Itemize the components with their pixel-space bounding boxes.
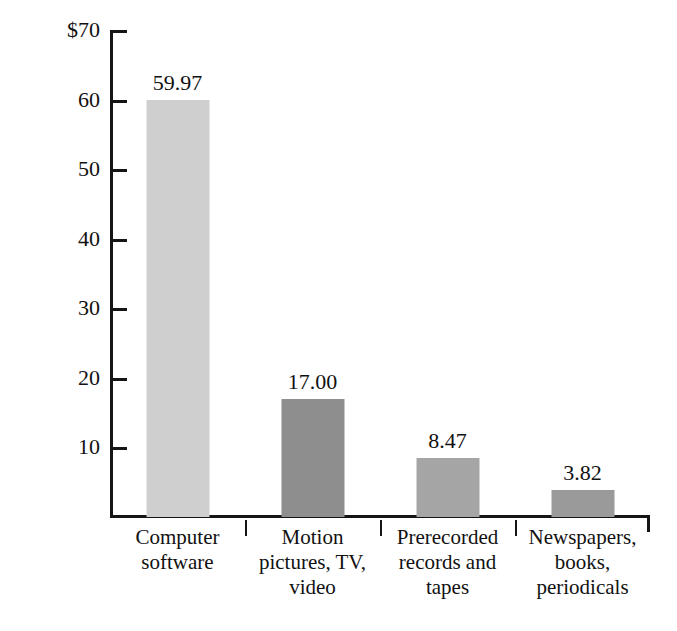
x-axis-category-line: books, (515, 550, 650, 575)
y-axis-tick-label: 40 (38, 226, 100, 252)
bar-slot: 59.97 (110, 30, 245, 517)
y-axis-tick-label: 60 (38, 87, 100, 113)
x-axis-category-line: Computer (110, 525, 245, 550)
bar-slot: 8.47 (380, 30, 515, 517)
x-axis-category-divider (515, 520, 517, 536)
x-axis-category-line: Newspapers, (515, 525, 650, 550)
x-axis-category-line: pictures, TV, (245, 550, 380, 575)
x-axis-category-line: Prerecorded (380, 525, 515, 550)
y-axis-tick-label: $70 (38, 17, 100, 43)
y-axis-tick-label: 50 (38, 156, 100, 182)
x-axis-category-divider (245, 520, 247, 536)
x-axis-category-line: records and (380, 550, 515, 575)
bar: 59.97 (146, 100, 209, 517)
y-axis-tick-label: 20 (38, 365, 100, 391)
bar-value-label: 59.97 (153, 70, 203, 96)
plot-area: $70605040302010 59.9717.008.473.82 (110, 28, 650, 520)
x-axis-category-band: ComputersoftwareMotionpictures, TV,video… (110, 520, 650, 625)
bar-chart-figure: Export sales in 2002 ($billion) $7060504… (0, 0, 677, 631)
x-axis-category-line: periodicals (515, 575, 650, 600)
x-axis-category-line: Motion (245, 525, 380, 550)
x-axis-category-label: Prerecordedrecords andtapes (380, 520, 515, 625)
bar: 8.47 (416, 458, 479, 517)
bar-value-label: 8.47 (428, 428, 467, 454)
bar: 3.82 (551, 490, 614, 517)
bar-slot: 3.82 (515, 30, 650, 517)
x-axis-category-label: Newspapers,books,periodicals (515, 520, 650, 625)
x-axis-category-line: video (245, 575, 380, 600)
x-axis-category-label: Computersoftware (110, 520, 245, 625)
x-axis-category-line: tapes (380, 575, 515, 600)
x-axis-category-label: Motionpictures, TV,video (245, 520, 380, 625)
x-axis-category-line: software (110, 550, 245, 575)
bar-slot: 17.00 (245, 30, 380, 517)
y-axis-tick-label: 10 (38, 434, 100, 460)
bar: 17.00 (281, 399, 344, 517)
bar-value-label: 3.82 (563, 460, 602, 486)
bar-value-label: 17.00 (288, 369, 338, 395)
x-axis-category-divider (380, 520, 382, 536)
y-axis-tick-label: 30 (38, 295, 100, 321)
